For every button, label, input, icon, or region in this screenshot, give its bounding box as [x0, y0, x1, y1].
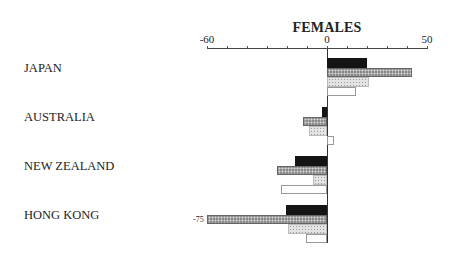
category-label: AUSTRALIA: [24, 110, 95, 125]
bar: [327, 68, 412, 78]
x-axis-tick: [427, 46, 428, 49]
category-label: NEW ZEALAND: [24, 159, 114, 174]
bar: [281, 185, 327, 195]
x-axis-tick: [247, 46, 248, 49]
x-axis-line: [207, 48, 428, 49]
bar: [303, 117, 327, 127]
x-axis-tick: [387, 46, 388, 49]
x-axis-tick: [227, 46, 228, 49]
x-axis-tick: [347, 46, 348, 49]
bar: [327, 87, 356, 97]
bar: [309, 126, 327, 136]
bar: [327, 77, 369, 87]
bar: [295, 156, 327, 166]
bar: [327, 58, 367, 68]
bar: [288, 224, 327, 234]
bar: [327, 136, 334, 146]
x-tick-label: 0: [324, 33, 330, 45]
clipped-value-annotation: -75: [193, 215, 204, 224]
bar: [313, 175, 327, 185]
x-axis-tick: [367, 46, 368, 49]
x-tick-label: -60: [200, 33, 215, 45]
bar: [277, 166, 327, 176]
x-axis-tick: [407, 46, 408, 49]
bar: [306, 234, 327, 244]
bar: [322, 107, 327, 117]
x-tick-label: 50: [422, 33, 433, 45]
category-label: JAPAN: [24, 61, 62, 76]
category-label: HONG KONG: [24, 208, 99, 223]
x-axis-tick: [287, 46, 288, 49]
x-axis-tick: [307, 46, 308, 49]
x-axis-tick: [267, 46, 268, 49]
x-axis-tick: [207, 46, 208, 49]
bar: [286, 205, 327, 215]
bar: [207, 215, 327, 225]
